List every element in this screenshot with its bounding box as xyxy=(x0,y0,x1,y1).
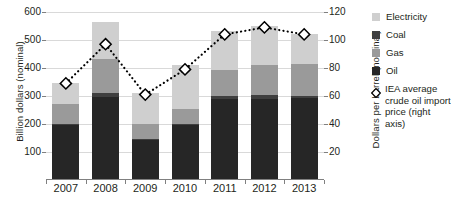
x-axis-tick-mark xyxy=(205,180,206,184)
line-marker-2012 xyxy=(259,22,270,33)
x-axis-tick-mark xyxy=(284,180,285,184)
y-axis-right-tick-mark xyxy=(324,124,328,125)
x-axis-baseline xyxy=(46,179,324,180)
x-axis-label-2010: 2010 xyxy=(165,182,205,194)
y-axis-left-tick-label: 200 xyxy=(13,119,41,129)
y-axis-left-tick-label: 500 xyxy=(13,35,41,45)
legend-item-iea-average-crude-oil-import-price-right-axis[interactable]: IEA average crude oil import price (righ… xyxy=(372,83,451,129)
y-axis-right-tick-label: 40 xyxy=(329,119,357,129)
y-axis-right-tick-label: 100 xyxy=(329,35,357,45)
line-series-overlay xyxy=(46,12,324,180)
legend-item-label: Gas xyxy=(386,47,404,59)
legend-item-coal[interactable]: Coal xyxy=(372,29,451,41)
line-marker-2007 xyxy=(60,78,71,89)
y-axis-left-tick-mark xyxy=(42,96,46,97)
y-axis-right-tick-mark xyxy=(324,12,328,13)
legend-item-label: IEA average crude oil import price (righ… xyxy=(385,83,451,129)
y-axis-left-tick-mark xyxy=(42,12,46,13)
y-axis-right-tick-label: 60 xyxy=(329,91,357,101)
legend-swatch-icon xyxy=(372,13,380,21)
y-axis-left-tick-label: 400 xyxy=(13,63,41,73)
y-axis-left-tick-mark xyxy=(42,68,46,69)
y-axis-left-tick-mark xyxy=(42,40,46,41)
y-axis-right-tick-mark xyxy=(324,96,328,97)
x-axis-tick-mark xyxy=(86,180,87,184)
y-axis-right-tick-mark xyxy=(324,152,328,153)
y-axis-right-tick-label: 80 xyxy=(329,63,357,73)
x-axis-label-2011: 2011 xyxy=(205,182,245,194)
x-axis-tick-mark xyxy=(165,180,166,184)
legend-diamond-icon xyxy=(371,84,381,94)
y-axis-left-tick-label: 600 xyxy=(13,7,41,17)
y-axis-left-ticks: 600500400300200100 xyxy=(13,0,43,217)
y-axis-left-tick-mark xyxy=(42,152,46,153)
plot-area xyxy=(46,12,324,180)
x-axis-labels: 2007200820092010201120122013 xyxy=(46,182,324,202)
y-axis-right-tick-label: 120 xyxy=(329,7,357,17)
y-axis-left-tick-label: 100 xyxy=(13,147,41,157)
x-axis-label-2008: 2008 xyxy=(86,182,126,194)
legend-item-electricity[interactable]: Electricity xyxy=(372,11,451,23)
legend-swatch-icon xyxy=(372,31,380,39)
legend-swatch-icon xyxy=(372,67,380,75)
legend-item-oil[interactable]: Oil xyxy=(372,65,451,77)
y-axis-right-tick-mark xyxy=(324,68,328,69)
line-marker-2009 xyxy=(140,89,151,100)
y-axis-right-tick-mark xyxy=(324,40,328,41)
line-marker-2013 xyxy=(299,29,310,40)
legend-swatch-icon xyxy=(372,49,380,57)
x-axis-label-2012: 2012 xyxy=(245,182,285,194)
line-marker-2008 xyxy=(100,39,111,50)
y-axis-right-ticks: 12010080604020 xyxy=(329,0,359,217)
x-axis-label-2007: 2007 xyxy=(46,182,86,194)
legend-item-gas[interactable]: Gas xyxy=(372,47,451,59)
x-axis-tick-mark xyxy=(245,180,246,184)
legend-item-label: Electricity xyxy=(386,11,427,23)
y-axis-left-tick-mark xyxy=(42,124,46,125)
x-axis-label-2013: 2013 xyxy=(284,182,324,194)
legend-item-label: Coal xyxy=(386,29,406,41)
y-axis-left-tick-label: 300 xyxy=(13,91,41,101)
x-axis-tick-mark xyxy=(46,180,47,184)
line-series-path xyxy=(66,27,304,94)
chart-legend: ElectricityCoalGasOilIEA average crude o… xyxy=(372,11,451,136)
y-axis-right-tick-label: 20 xyxy=(329,147,357,157)
x-axis-tick-mark xyxy=(125,180,126,184)
legend-item-label: Oil xyxy=(386,65,398,77)
x-axis-tick-mark xyxy=(324,180,325,184)
stacked-bar-chart: Billion dollars (nominal) Dollars per ba… xyxy=(0,0,451,217)
x-axis-label-2009: 2009 xyxy=(125,182,165,194)
